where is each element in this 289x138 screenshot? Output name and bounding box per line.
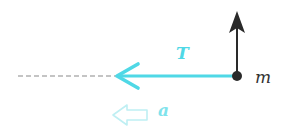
free-body-diagram: T m a [0,0,289,138]
upward-force-arrow [229,11,245,76]
mass-label: m [255,69,271,86]
acceleration-arrow-icon [113,105,147,125]
mass-point [232,71,242,81]
tension-arrow [117,64,237,88]
diagram-canvas [0,0,289,138]
acceleration-label: a [158,102,169,119]
tension-label: T [176,45,189,62]
